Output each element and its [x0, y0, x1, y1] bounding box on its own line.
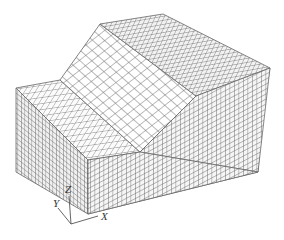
- axis-x-line: [71, 216, 98, 224]
- slope-mesh-diagram: [0, 0, 284, 240]
- axis-label-y: Y: [53, 198, 59, 209]
- axis-label-z: Z: [65, 184, 71, 195]
- axis-y-line: [58, 208, 71, 224]
- axis-label-x: X: [101, 211, 108, 222]
